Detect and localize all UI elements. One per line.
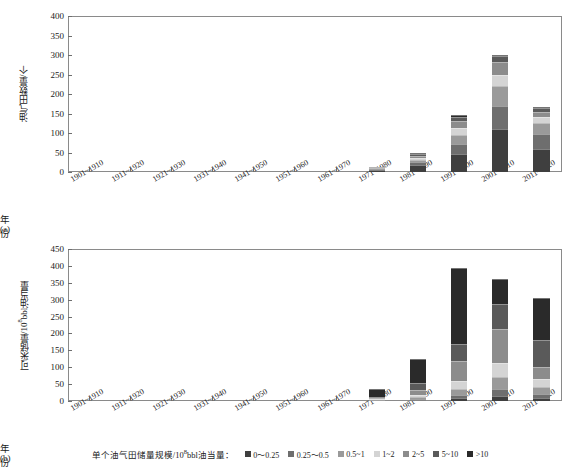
bar-segment xyxy=(533,123,549,134)
y-tick-label: 200 xyxy=(38,328,64,338)
legend-item-label: 0～0.25 xyxy=(253,449,279,460)
y-tick-mark xyxy=(68,153,72,154)
chart-legend: 单个油气田储量规模/108bbl油当量：0～0.250.25～0.50.5~11… xyxy=(0,448,580,460)
bar-segment xyxy=(492,329,508,363)
y-tick-mark xyxy=(68,283,72,284)
y-tick-label: 150 xyxy=(38,345,64,355)
bar-segment xyxy=(410,160,426,162)
bar-segment xyxy=(451,135,467,144)
bar-segment xyxy=(451,395,467,398)
bar-segment xyxy=(533,379,549,386)
axes-box-b xyxy=(68,249,562,401)
bar-segment xyxy=(369,398,385,399)
chart-panel-b: 050100150200250300350400450可采储量/108bbl油当… xyxy=(0,235,580,435)
bar-segment xyxy=(492,389,508,396)
bar-segment xyxy=(451,144,467,154)
bar-b-11 xyxy=(533,298,549,401)
y-tick-mark xyxy=(68,333,72,334)
y-tick-label: 100 xyxy=(38,128,64,138)
bar-b-8 xyxy=(410,359,426,401)
legend-item-label: 5~10 xyxy=(442,450,458,459)
y-tick-label: 450 xyxy=(38,244,64,254)
y-tick-label: 0 xyxy=(38,396,64,406)
bar-a-10 xyxy=(492,55,508,172)
bar-segment xyxy=(410,153,426,154)
y-tick-mark xyxy=(68,114,72,115)
bar-segment xyxy=(451,344,467,362)
y-tick-mark xyxy=(68,367,72,368)
y-tick-label: 250 xyxy=(38,70,64,80)
bar-segment xyxy=(451,115,467,117)
bar-a-7 xyxy=(369,168,385,172)
bar-segment xyxy=(451,361,467,381)
bar-segment xyxy=(451,398,467,401)
bar-segment xyxy=(492,377,508,389)
y-tick-mark xyxy=(68,350,72,351)
bar-segment xyxy=(451,381,467,389)
legend-title: 单个油气田储量规模/108bbl油当量： xyxy=(92,448,234,460)
legend-item-0: 0～0.25 xyxy=(245,449,280,460)
y-tick-label: 150 xyxy=(38,109,64,119)
bar-segment xyxy=(492,396,508,401)
bar-segment xyxy=(369,397,385,398)
legend-item-label: 0.25～0.5 xyxy=(297,449,329,460)
bar-segment xyxy=(451,154,467,172)
legend-item-1: 0.25～0.5 xyxy=(288,449,329,460)
bar-b-7 xyxy=(369,389,385,401)
legend-item-label: 2~5 xyxy=(412,450,424,459)
y-tick-mark xyxy=(68,94,72,95)
y-tick-mark xyxy=(68,172,72,173)
bar-segment xyxy=(369,167,385,168)
bar-a-8 xyxy=(410,153,426,172)
bar-a-11 xyxy=(533,107,549,172)
y-tick-mark xyxy=(68,266,72,267)
legend-item-label: 1~2 xyxy=(382,450,394,459)
bar-segment xyxy=(533,149,549,172)
bar-segment xyxy=(369,389,385,397)
bar-segment xyxy=(369,170,385,172)
bar-segment xyxy=(492,86,508,106)
bar-segment xyxy=(410,399,426,400)
bar-segment xyxy=(410,390,426,395)
bar-segment xyxy=(492,55,508,56)
bar-segment xyxy=(451,389,467,395)
legend-item-6: >10 xyxy=(467,450,488,459)
legend-item-5: 5~10 xyxy=(433,450,458,459)
y-tick-mark xyxy=(68,401,72,402)
bar-segment xyxy=(492,129,508,172)
bar-segment xyxy=(410,162,426,165)
bar-segment xyxy=(451,117,467,121)
bar-segment xyxy=(410,158,426,160)
bar-a-9 xyxy=(451,115,467,172)
y-tick-mark xyxy=(68,249,72,250)
bar-segment xyxy=(533,387,549,394)
y-tick-mark xyxy=(68,300,72,301)
legend-swatch-icon xyxy=(467,451,473,457)
y-axis-title: 可采储量/108bbl油当量 xyxy=(16,249,30,401)
legend-swatch-icon xyxy=(245,451,251,457)
bar-segment xyxy=(492,279,508,303)
legend-swatch-icon xyxy=(403,451,409,457)
y-tick-mark xyxy=(68,75,72,76)
y-tick-label: 100 xyxy=(38,362,64,372)
bar-segment xyxy=(533,340,549,366)
bar-segment xyxy=(410,156,426,158)
bar-segment xyxy=(533,398,549,401)
legend-item-4: 2~5 xyxy=(403,450,424,459)
legend-item-2: 0.5~1 xyxy=(338,450,365,459)
y-tick-mark xyxy=(68,16,72,17)
legend-swatch-icon xyxy=(288,451,294,457)
bar-segment xyxy=(451,128,467,135)
bar-segment xyxy=(492,106,508,129)
y-tick-label: 350 xyxy=(38,278,64,288)
bar-b-9 xyxy=(451,268,467,401)
bar-segment xyxy=(533,298,549,340)
bar-segment xyxy=(492,75,508,87)
y-tick-label: 250 xyxy=(38,312,64,322)
y-tick-label: 300 xyxy=(38,295,64,305)
legend-item-label: 0.5~1 xyxy=(346,450,364,459)
y-tick-mark xyxy=(68,133,72,134)
y-tick-label: 300 xyxy=(38,50,64,60)
y-tick-label: 400 xyxy=(38,261,64,271)
bar-segment xyxy=(533,134,549,149)
